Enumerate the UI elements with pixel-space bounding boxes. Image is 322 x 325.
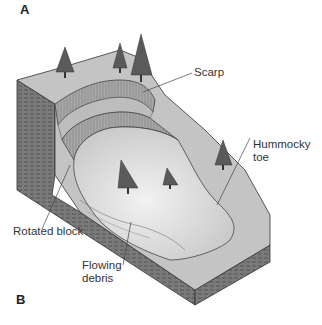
panel-label-a: A: [20, 2, 29, 17]
hummocky-toe-label: Hummocky toe: [253, 138, 311, 164]
hummocky-toe-label-line2: toe: [253, 151, 311, 164]
flowing-debris-label-line1: Flowing: [82, 259, 122, 272]
flowing-debris-label-line2: debris: [82, 272, 122, 285]
flowing-debris-label: Flowing debris: [82, 259, 122, 285]
panel-label-b: B: [16, 292, 25, 307]
scarp-label: Scarp: [194, 66, 224, 79]
rotated-block-label: Rotated block: [13, 225, 83, 238]
hummocky-toe-label-line1: Hummocky: [253, 138, 311, 151]
